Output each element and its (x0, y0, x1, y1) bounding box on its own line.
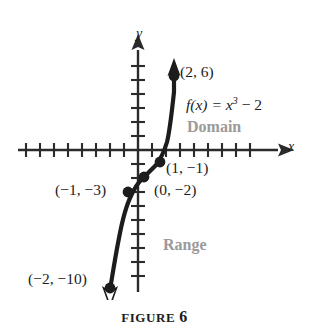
figure-container: y x (2, 6) (1, −1) (0, −2) (−1, −3) (−2,… (0, 0, 309, 335)
data-point-m1-m3 (123, 187, 134, 198)
function-equation-base: x (226, 96, 233, 113)
data-point-m2-m10 (105, 283, 116, 294)
point-label-0-minus2: (0, −2) (154, 182, 196, 198)
domain-annotation: Domain (187, 119, 241, 135)
function-equation-lhs: f(x) = (186, 96, 222, 113)
point-label-minus2-minus10: (−2, −10) (28, 271, 87, 287)
data-point-2-6 (169, 71, 180, 82)
point-label-1-minus1: (1, −1) (166, 160, 208, 176)
range-annotation: Range (163, 237, 207, 253)
data-point-0-m2 (139, 172, 150, 183)
figure-caption: FIGURE 6 (0, 308, 309, 326)
point-label-minus1-minus3: (−1, −3) (55, 182, 106, 198)
function-equation: f(x) = x3 − 2 (186, 96, 262, 113)
x-axis-label: x (288, 140, 294, 154)
y-axis-label: y (136, 27, 142, 41)
figure-caption-number: 6 (179, 308, 188, 325)
function-equation-tail: − 2 (242, 96, 262, 113)
point-label-2-6: (2, 6) (180, 64, 214, 80)
figure-caption-prefix: FIGURE (121, 310, 175, 325)
data-point-1-m1 (155, 157, 166, 168)
function-equation-exponent: 3 (233, 95, 238, 106)
graph-plot (0, 0, 309, 300)
